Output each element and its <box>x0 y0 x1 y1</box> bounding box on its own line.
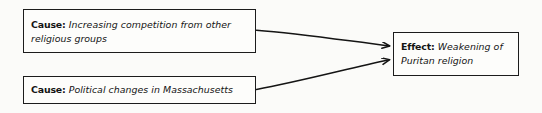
arrow-cause-2-to-effect <box>257 60 390 90</box>
cause-box-2-text: Cause: Political changes in Massachusett… <box>24 83 240 97</box>
diagram-canvas: Cause: Increasing competition from other… <box>0 0 542 113</box>
effect-box-text: Effect: Weakening of Puritan religion <box>394 33 518 68</box>
cause-box-1[interactable]: Cause: Increasing competition from other… <box>23 9 256 53</box>
effect-box-label: Effect: <box>401 41 435 52</box>
effect-box[interactable]: Effect: Weakening of Puritan religion <box>393 32 519 76</box>
cause-box-2[interactable]: Cause: Political changes in Massachusett… <box>23 76 256 104</box>
cause-box-2-body: Political changes in Massachusetts <box>69 84 233 95</box>
cause-box-1-text: Cause: Increasing competition from other… <box>24 10 255 46</box>
cause-box-2-label: Cause: <box>31 84 66 95</box>
cause-box-1-label: Cause: <box>31 19 66 30</box>
arrow-cause-1-to-effect <box>257 30 390 46</box>
